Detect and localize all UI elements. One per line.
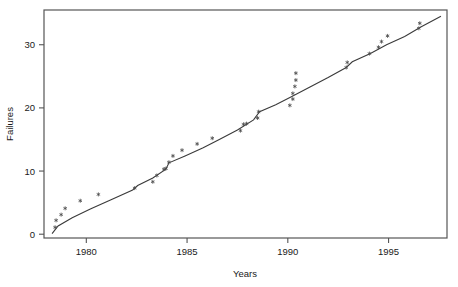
chart-page: 1980198519901995 0102030 Years Failures [0,0,458,287]
failures-vs-years-scatter-chart: 1980198519901995 0102030 Years Failures [0,0,458,287]
y-tick-label: 30 [24,39,35,50]
x-tick-label: 1985 [176,246,197,257]
x-tick-label: 1980 [76,246,97,257]
x-tick-label: 1995 [378,246,399,257]
y-axis-title: Failures [4,107,15,141]
y-tick-label: 20 [24,102,35,113]
x-axis-title: Years [233,268,257,279]
y-tick-label: 10 [24,166,35,177]
y-tick-label: 0 [30,229,35,240]
x-tick-label: 1990 [277,246,298,257]
